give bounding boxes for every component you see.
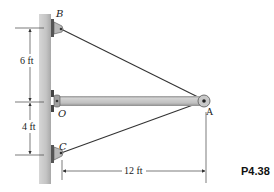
point-label-A: A bbox=[206, 106, 214, 117]
beam-OA bbox=[56, 96, 204, 106]
problem-label: P4.38 bbox=[241, 165, 270, 177]
point-label-O: O bbox=[58, 108, 66, 119]
wall-column bbox=[39, 14, 51, 184]
point-label-C: C bbox=[59, 141, 67, 152]
bracket-B bbox=[51, 19, 63, 37]
cable-AB bbox=[61, 29, 204, 100]
point-label-B: B bbox=[55, 8, 63, 19]
cable-AC bbox=[61, 101, 204, 153]
structure-diagram: B O C A 6 ft 4 ft 12 ft P4.38 bbox=[0, 0, 274, 192]
pin-A-icon bbox=[202, 99, 206, 103]
dimension-12ft: 12 ft bbox=[124, 165, 143, 176]
dimension-4ft: 4 ft bbox=[22, 121, 36, 132]
dimension-6ft: 6 ft bbox=[20, 55, 34, 66]
